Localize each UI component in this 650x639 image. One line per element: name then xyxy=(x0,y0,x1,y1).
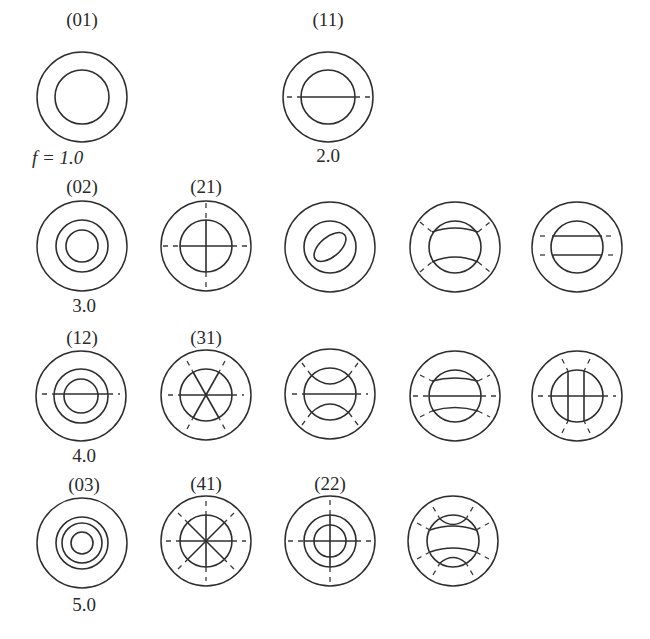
mode-r4c4-pattern xyxy=(408,496,498,586)
mode-r2c5-pattern xyxy=(532,202,622,292)
mode-41-pattern xyxy=(161,496,251,586)
mode-11-pattern xyxy=(283,52,373,142)
mode-label-22: (22) xyxy=(314,473,346,495)
mode-12-pattern xyxy=(36,351,126,441)
mode-pattern-diagram: (01) f = 1.0 (11) 2.0 (02) 3.0 (21) xyxy=(0,0,650,639)
mode-r3c5-pattern xyxy=(532,351,622,441)
mode-02-pattern xyxy=(37,201,127,291)
mode-r2c3-pattern xyxy=(285,202,375,292)
mode-label-12: (12) xyxy=(66,327,98,349)
mode-r2c4-pattern xyxy=(410,202,500,292)
freq-label-3: 3.0 xyxy=(72,295,96,316)
mode-03-pattern xyxy=(37,498,127,588)
mode-label-21: (21) xyxy=(190,176,222,198)
mode-22-pattern xyxy=(285,496,375,586)
mode-01-pattern xyxy=(37,52,127,142)
mode-r3c3-pattern xyxy=(285,349,375,439)
mode-label-41: (41) xyxy=(190,473,222,495)
mode-label-31: (31) xyxy=(190,327,222,349)
freq-label-2: 2.0 xyxy=(316,145,340,166)
mode-label-01: (01) xyxy=(66,9,98,31)
mode-31-pattern xyxy=(161,350,251,440)
freq-label-5: 5.0 xyxy=(72,594,96,615)
freq-label-4: 4.0 xyxy=(72,445,96,466)
freq-label-1: f = 1.0 xyxy=(32,147,84,168)
mode-21-pattern xyxy=(161,201,251,291)
mode-r3c4-pattern xyxy=(410,351,500,441)
mode-label-02: (02) xyxy=(66,176,98,198)
mode-label-11: (11) xyxy=(313,9,344,31)
mode-label-03: (03) xyxy=(68,474,100,496)
